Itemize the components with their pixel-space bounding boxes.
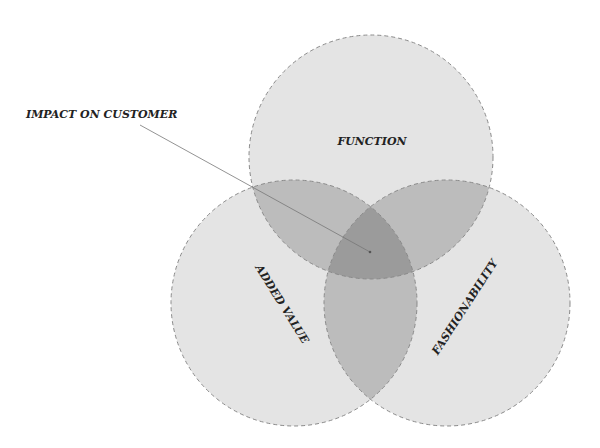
venn-diagram: IMPACT ON CUSTOMER FUNCTION ADDED VALUE … <box>0 0 600 448</box>
callout-dot <box>369 251 372 254</box>
label-function: FUNCTION <box>336 135 407 148</box>
callout-label: IMPACT ON CUSTOMER <box>25 108 177 121</box>
